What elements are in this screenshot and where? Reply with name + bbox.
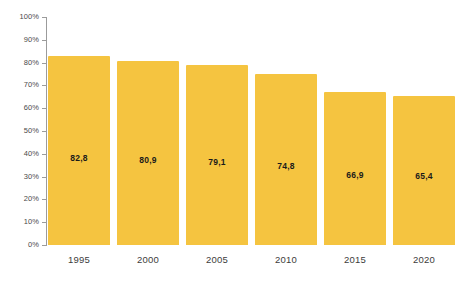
y-axis-tick-label: 70%: [24, 79, 39, 91]
x-axis-category-label: 2005: [178, 254, 256, 265]
x-axis-category-label: 2000: [109, 254, 187, 265]
bar: [48, 56, 110, 245]
bar-value-label: 66,9: [324, 170, 386, 180]
bar-group: 66,92015: [324, 0, 386, 284]
y-axis: 0%10%20%30%40%50%60%70%80%90%100%: [0, 0, 48, 284]
y-axis-tick-label: 10%: [24, 216, 39, 228]
y-axis-tick-label: 90%: [24, 34, 39, 46]
y-axis-tick-mark: [42, 85, 47, 86]
y-axis-tick-mark: [42, 108, 47, 109]
bar-value-label: 79,1: [186, 157, 248, 167]
y-axis-tick-label: 20%: [24, 193, 39, 205]
y-axis-tick-mark: [42, 222, 47, 223]
y-axis-tick-label: 50%: [24, 125, 39, 137]
bar-group: 82,81995: [48, 0, 110, 284]
bar: [255, 74, 317, 245]
y-axis-tick-mark: [42, 177, 47, 178]
x-axis-category-label: 2010: [247, 254, 325, 265]
bar-chart: 0%10%20%30%40%50%60%70%80%90%100% 82,819…: [0, 0, 471, 284]
bar: [186, 65, 248, 245]
y-axis-tick-label: 0%: [28, 239, 39, 251]
y-axis-tick-label: 60%: [24, 102, 39, 114]
y-axis-tick-label: 100%: [19, 11, 39, 23]
y-axis-tick-mark: [42, 154, 47, 155]
bar-group: 80,92000: [117, 0, 179, 284]
y-axis-tick-mark: [42, 40, 47, 41]
bar-value-label: 80,9: [117, 155, 179, 165]
bar-value-label: 82,8: [48, 153, 110, 163]
y-axis-tick-label: 80%: [24, 57, 39, 69]
y-axis-tick-mark: [42, 245, 47, 246]
y-axis-tick-mark: [42, 199, 47, 200]
plot-area: 82,8199580,9200079,1200574,8201066,92015…: [48, 0, 471, 284]
y-axis-tick-label: 30%: [24, 171, 39, 183]
bar-value-label: 65,4: [393, 171, 455, 181]
x-axis-category-label: 1995: [40, 254, 118, 265]
bar-value-label: 74,8: [255, 161, 317, 171]
y-axis-tick-mark: [42, 63, 47, 64]
y-axis-tick-label: 40%: [24, 148, 39, 160]
bar-group: 74,82010: [255, 0, 317, 284]
bar-group: 79,12005: [186, 0, 248, 284]
bar-group: 65,42020: [393, 0, 455, 284]
x-axis-category-label: 2015: [316, 254, 394, 265]
x-axis-category-label: 2020: [385, 254, 463, 265]
bar: [117, 61, 179, 245]
y-axis-tick-mark: [42, 17, 47, 18]
y-axis-tick-mark: [42, 131, 47, 132]
